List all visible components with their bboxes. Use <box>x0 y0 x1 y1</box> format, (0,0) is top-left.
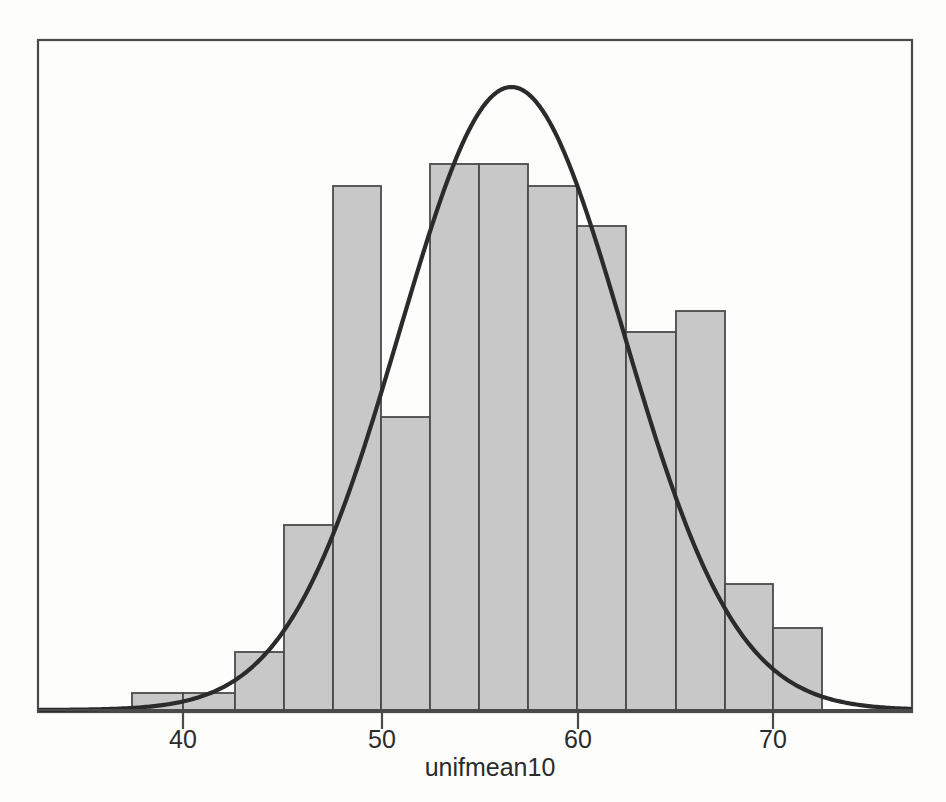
x-axis-tick-labels: 40506070 <box>169 725 787 753</box>
x-axis-tick-label: 70 <box>759 725 787 753</box>
histogram-bar <box>333 186 381 710</box>
histogram-figure: 40506070 unifmean10 <box>0 0 946 802</box>
histogram-bar <box>773 628 822 710</box>
x-axis-tick-label: 60 <box>564 725 592 753</box>
histogram-bar <box>577 226 626 710</box>
histogram-bar <box>430 164 479 710</box>
histogram-bars <box>132 164 822 710</box>
histogram-bar <box>479 164 528 710</box>
x-axis-tick-label: 40 <box>169 725 197 753</box>
histogram-bar <box>626 332 676 710</box>
histogram-bar <box>528 186 577 710</box>
histogram-plot: 40506070 unifmean10 <box>0 0 946 802</box>
histogram-bar <box>676 311 725 710</box>
histogram-bar <box>381 417 430 710</box>
x-axis-title: unifmean10 <box>425 753 556 781</box>
x-axis-tick-label: 50 <box>368 725 396 753</box>
